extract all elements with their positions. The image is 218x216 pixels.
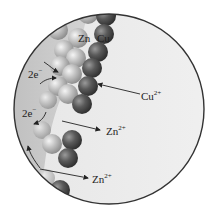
diagram-canvas: Zn Cu 2e− 2e− Cu2+ Zn2+ Zn2+ <box>0 0 218 216</box>
zn-atom-label: Zn <box>78 32 91 44</box>
zinc-copper-redox-diagram: Zn Cu 2e− 2e− Cu2+ Zn2+ Zn2+ <box>0 0 218 216</box>
cu-atom-label: Cu <box>97 32 110 44</box>
